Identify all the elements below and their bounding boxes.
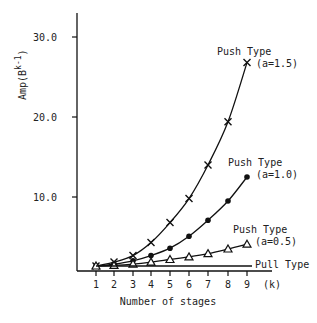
x-tick-label: 6	[186, 279, 192, 290]
dot-marker-icon	[205, 217, 211, 223]
y-tick-label: 30.0	[33, 32, 57, 43]
y-tick-label: 10.0	[33, 192, 57, 203]
series-label: Push Type	[217, 46, 271, 57]
x-axis-label: Number of stages	[120, 296, 216, 307]
triangle-marker-icon	[243, 240, 251, 247]
dot-marker-icon	[225, 198, 231, 204]
x-unit-label: (k)	[263, 279, 281, 290]
y-axis-label-superscript: k-1	[14, 55, 23, 70]
amplification-chart: 10.020.030.0 123456789 Push Type(a=1.5)P…	[0, 0, 317, 323]
x-tick-label: 7	[205, 279, 211, 290]
series-line	[96, 63, 247, 266]
y-axis-label-close: )	[17, 49, 28, 55]
x-marker-icon	[186, 195, 193, 202]
x-tick-label: 1	[93, 279, 99, 290]
series-param-label: (a=1.0)	[256, 169, 298, 180]
series-param-label: (a=0.5)	[255, 236, 297, 247]
x-tick-label: 4	[148, 279, 154, 290]
y-axis-label: Amp(Bk-1)	[14, 49, 28, 100]
dot-marker-icon	[244, 174, 250, 180]
x-tick-label: 2	[111, 279, 117, 290]
series-param-label: (a=1.5)	[256, 58, 298, 69]
x-marker-icon	[148, 239, 155, 246]
x-tick-label: 5	[167, 279, 173, 290]
x-ticks: 123456789	[93, 271, 250, 290]
series-label: Push Type	[228, 157, 282, 168]
x-marker-icon	[225, 118, 232, 125]
series-label: Push Type	[233, 224, 287, 235]
y-ticks: 10.020.030.0	[33, 32, 77, 203]
series-labels: Push Type(a=1.5)Push Type(a=1.0)Push Typ…	[217, 46, 309, 270]
dot-marker-icon	[167, 245, 173, 251]
x-marker-icon	[167, 219, 174, 226]
x-marker-icon	[244, 59, 251, 66]
series-0	[93, 59, 251, 269]
dot-marker-icon	[186, 233, 192, 239]
x-tick-label: 3	[130, 279, 136, 290]
series-2	[92, 240, 251, 269]
series-label: Pull Type	[255, 259, 309, 270]
x-tick-label: 8	[225, 279, 231, 290]
y-tick-label: 20.0	[33, 112, 57, 123]
x-marker-icon	[205, 162, 212, 169]
y-axis-label-main: Amp(B	[17, 70, 28, 100]
x-tick-label: 9	[244, 279, 250, 290]
